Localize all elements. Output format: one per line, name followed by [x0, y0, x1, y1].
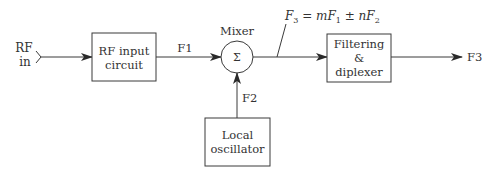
- formula-leader-line: [277, 24, 286, 57]
- input-connector-icon: [36, 51, 41, 63]
- f2-label: F2: [242, 91, 257, 105]
- lo-line1: Local: [222, 128, 254, 142]
- frequency-formula: F3 = mF1 ± nF2: [284, 9, 380, 25]
- filter-line3: diplexer: [335, 65, 383, 79]
- lo-line2: oscillator: [210, 142, 265, 156]
- filter-line2: &: [354, 51, 364, 65]
- mixer-label: Mixer: [220, 24, 255, 38]
- f1-label: F1: [177, 41, 192, 55]
- sigma-icon: Σ: [233, 51, 241, 64]
- local-oscillator-block: Local oscillator: [205, 118, 270, 166]
- rf-in-label-line2: in: [19, 55, 31, 69]
- f3-output-label: F3: [467, 50, 482, 64]
- rf-input-circuit-block: RF input circuit: [92, 33, 156, 81]
- rf-input-line2: circuit: [105, 58, 143, 72]
- block-diagram: RF in RF input circuit F1 Mixer Σ F3 = m…: [0, 0, 493, 176]
- rf-in-label-line1: RF: [15, 41, 32, 55]
- filtering-diplexer-block: Filtering & diplexer: [327, 34, 391, 82]
- filter-line1: Filtering: [334, 37, 385, 51]
- rf-input-line1: RF input: [99, 44, 150, 58]
- mixer-block: Mixer Σ: [220, 24, 255, 73]
